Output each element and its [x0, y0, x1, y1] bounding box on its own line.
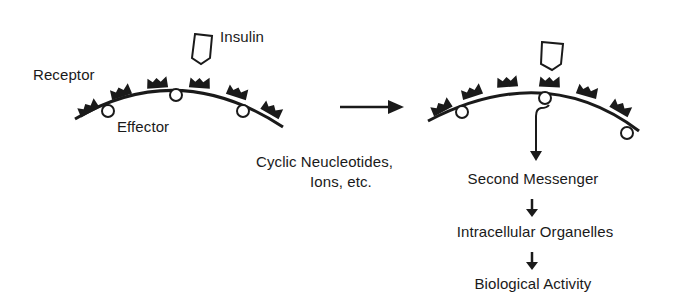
receptor-icon	[496, 75, 518, 87]
down-arrow-icon	[526, 252, 538, 270]
effector-icon	[102, 105, 114, 117]
receptor-label: Receptor	[33, 66, 95, 83]
receptor-icon	[576, 83, 599, 99]
cascade-step-second-messenger: Second Messenger	[453, 170, 613, 187]
cascade-step-biological-activity: Biological Activity	[453, 275, 613, 292]
insulin-icon	[192, 34, 212, 64]
receptor-icon	[460, 83, 483, 100]
side-note-line2: Ions, etc.	[310, 173, 372, 190]
left-membrane-group	[75, 34, 284, 127]
signal-path	[536, 105, 549, 153]
right-arrow-icon	[340, 100, 404, 114]
effector-label: Effector	[117, 118, 169, 135]
receptor-icon	[146, 76, 168, 88]
down-arrow-icon	[526, 199, 538, 217]
insulin-label: Insulin	[220, 28, 264, 45]
down-arrow-icon	[530, 151, 542, 161]
side-note-line1: Cyclic Neucleotides,	[256, 153, 393, 170]
effector-icon	[539, 92, 551, 104]
receptor-icon	[189, 76, 211, 88]
effector-icon	[170, 89, 182, 101]
effector-icon	[237, 105, 249, 117]
cascade-step-intracellular-organelles: Intracellular Organelles	[430, 223, 640, 240]
receptor-icon	[539, 75, 561, 87]
effector-icon	[456, 106, 468, 118]
insulin-icon	[541, 42, 563, 70]
receptor-icon	[226, 83, 249, 100]
receptor-icon	[76, 98, 100, 118]
right-membrane-group	[428, 42, 639, 161]
effector-icon	[621, 127, 633, 139]
